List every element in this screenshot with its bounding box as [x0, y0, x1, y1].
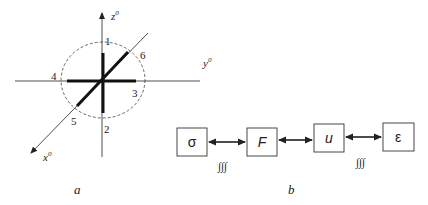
box-f-label: F — [258, 134, 268, 150]
triple-integral-2: ∫∫∫ — [355, 156, 366, 169]
direction-label-1: 1 — [105, 35, 111, 47]
direction-label-4: 4 — [51, 70, 57, 82]
direction-label-6: 6 — [140, 49, 146, 61]
figure-a-coordinate-system: z0 y0 x0 1 2 3 4 5 6 a — [15, 9, 212, 197]
box-sigma-label: σ — [188, 134, 197, 150]
caption-b: b — [288, 182, 295, 197]
figure-canvas: z0 y0 x0 1 2 3 4 5 6 a σ F u ε ∫∫∫ ∫∫∫ b — [0, 0, 428, 205]
triple-integral-1: ∫∫∫ — [217, 160, 228, 173]
figure-b-block-diagram: σ F u ε ∫∫∫ ∫∫∫ b — [177, 123, 414, 197]
box-u-label: u — [325, 130, 333, 146]
direction-label-5: 5 — [71, 115, 77, 127]
direction-label-3: 3 — [132, 87, 138, 99]
z-axis-label: z0 — [110, 9, 119, 22]
box-epsilon-label: ε — [395, 129, 401, 145]
direction-label-2: 2 — [104, 123, 110, 135]
caption-a: a — [74, 182, 81, 197]
y-axis-label: y0 — [202, 56, 212, 69]
x-axis-label: x0 — [42, 150, 52, 163]
